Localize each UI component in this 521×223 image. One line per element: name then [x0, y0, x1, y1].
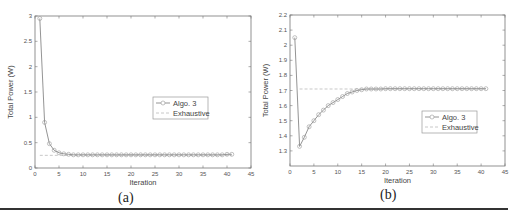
x-tick-label: 10: [334, 169, 341, 175]
y-tick-label: 2.2: [279, 12, 288, 18]
caption-a: (a): [118, 190, 134, 206]
y-axis-title: Total Power (W): [261, 63, 270, 117]
y-tick-label: 2: [284, 42, 288, 48]
x-tick-label: 35: [454, 169, 461, 175]
legend: Algo. 3Exhaustive: [422, 111, 479, 133]
y-tick-label: 1.9: [279, 57, 288, 63]
algo3-line: [40, 19, 232, 155]
legend-algo3-marker: [430, 115, 434, 119]
legend-algo3-marker: [161, 101, 165, 105]
y-tick-label: 1.5: [279, 118, 288, 124]
y-axis-title: Total Power (W): [6, 65, 15, 119]
x-tick-label: 45: [248, 171, 255, 177]
x-tick-label: 20: [382, 169, 389, 175]
y-tick-label: 1.3: [279, 148, 288, 154]
x-tick-label: 40: [478, 169, 485, 175]
x-tick-label: 40: [224, 171, 231, 177]
legend-algo3-label: Algo. 3: [442, 113, 465, 122]
y-tick-label: 1.8: [279, 72, 288, 78]
y-tick-label: 2.5: [24, 38, 33, 44]
y-tick-label: 2: [29, 64, 33, 70]
y-tick-label: 0.5: [24, 140, 33, 146]
x-axis-title: Iteration: [129, 178, 156, 187]
x-tick-label: 10: [80, 171, 87, 177]
x-tick-label: 30: [176, 171, 183, 177]
y-tick-label: 3: [29, 13, 33, 19]
legend-exhaustive-label: Exhaustive: [442, 123, 479, 132]
y-tick-label: 0: [29, 165, 33, 171]
legend-algo3-label: Algo. 3: [173, 99, 196, 108]
chart-panel-b: 0510152025303540451.31.41.51.61.71.81.92…: [260, 0, 521, 200]
y-tick-label: 1.7: [279, 88, 288, 94]
x-tick-label: 5: [312, 169, 316, 175]
chart-b-plot: 0510152025303540451.31.41.51.61.71.81.92…: [260, 0, 521, 200]
y-tick-label: 1: [29, 114, 33, 120]
x-tick-label: 30: [430, 169, 437, 175]
x-axis-title: Iteration: [384, 176, 411, 185]
x-tick-label: 0: [33, 171, 37, 177]
x-tick-label: 25: [406, 169, 413, 175]
x-tick-label: 35: [200, 171, 207, 177]
x-tick-label: 45: [502, 169, 509, 175]
chart-panel-a: 05101520253035404500.511.522.53Iteration…: [0, 0, 260, 200]
axes-box: [35, 16, 251, 168]
x-tick-label: 20: [128, 171, 135, 177]
y-tick-label: 2.1: [279, 27, 288, 33]
legend: Algo. 3Exhaustive: [153, 97, 210, 119]
x-tick-label: 0: [288, 169, 292, 175]
x-tick-label: 15: [358, 169, 365, 175]
y-tick-label: 1.4: [279, 133, 288, 139]
chart-a-plot: 05101520253035404500.511.522.53Iteration…: [0, 0, 260, 200]
x-tick-label: 15: [104, 171, 111, 177]
x-tick-label: 5: [57, 171, 61, 177]
caption-b: (b): [380, 187, 396, 203]
bottom-rule-divider: [0, 208, 508, 210]
y-tick-label: 1.5: [24, 89, 33, 95]
legend-exhaustive-label: Exhaustive: [173, 109, 210, 118]
x-tick-label: 25: [152, 171, 159, 177]
y-tick-label: 1.6: [279, 103, 288, 109]
